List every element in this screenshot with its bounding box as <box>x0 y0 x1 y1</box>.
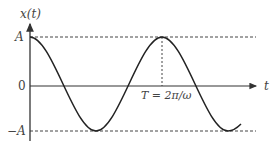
tick-label-minus-A: −A <box>7 125 26 137</box>
tick-label-A: A <box>15 31 24 43</box>
period-label: T = 2π/ω <box>141 90 191 101</box>
sinusoid-curve <box>30 37 241 131</box>
y-axis-label: x(t) <box>20 8 41 20</box>
diagram-graphics <box>0 0 276 150</box>
tick-label-zero: 0 <box>18 80 26 92</box>
oscillation-diagram: x(t) A 0 −A T = 2π/ω t <box>0 0 276 150</box>
t-axis-label: t <box>264 80 269 92</box>
